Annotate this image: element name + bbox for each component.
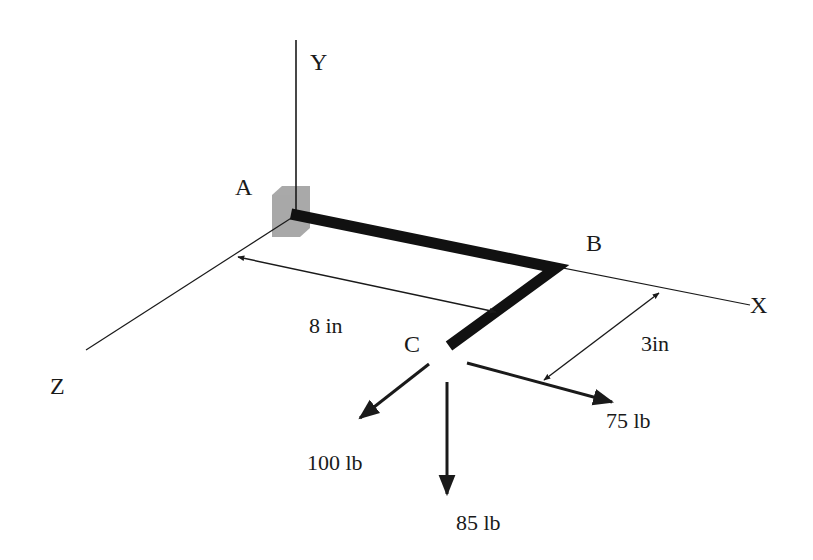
y-axis-label: Y (310, 49, 327, 75)
force-100lb-arrow (360, 364, 429, 418)
point-a-label: A (235, 174, 253, 200)
z-axis (86, 215, 296, 350)
force-100lb-label: 100 lb (307, 450, 363, 475)
z-axis-label: Z (50, 373, 65, 399)
dimension-ab-label: 8 in (309, 313, 343, 338)
force-75lb-arrow (467, 363, 612, 402)
dimension-ab-arrow (238, 257, 496, 312)
force-85lb-label: 85 lb (456, 510, 501, 535)
point-c-label: C (404, 331, 420, 357)
force-75lb-label: 75 lb (606, 408, 651, 433)
point-b-label: B (586, 230, 602, 256)
dimension-bc-label: 3in (641, 331, 669, 356)
x-axis-label: X (750, 292, 767, 318)
statics-diagram: Y X Z A B C 8 in 3in 100 lb 85 lb 75 lb (0, 0, 813, 560)
